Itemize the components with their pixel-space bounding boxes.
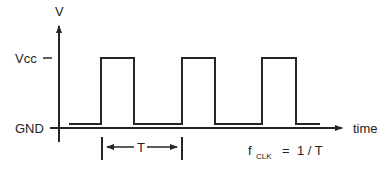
vcc-level-label: Vcc — [15, 51, 37, 66]
clock-square-wave — [69, 58, 320, 124]
period-label: T — [137, 140, 145, 155]
y-axis-label: V — [55, 4, 64, 19]
frequency-formula: f CLK = 1 / T — [248, 141, 323, 162]
formula-subscript: CLK — [256, 152, 272, 161]
formula-f: f — [248, 143, 252, 158]
formula-rhs: = 1 / T — [282, 143, 323, 158]
time-axis-label: time — [353, 121, 378, 136]
gnd-level-label: GND — [15, 121, 44, 136]
clock-waveform-diagram: V time Vcc GND T f CLK = 1 / T — [0, 0, 392, 175]
